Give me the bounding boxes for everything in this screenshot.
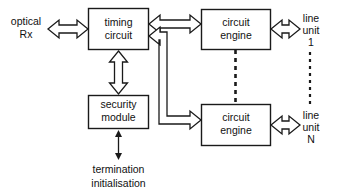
connector-optical-rx-to-timing-circuit	[48, 20, 88, 38]
block-timing-circuit-label-line1: timing	[104, 16, 132, 28]
block-circuit-engine-n-label-line1: circuit	[222, 111, 250, 123]
diagram-canvas: timing circuit security module circuit e…	[0, 0, 337, 194]
label-termination: termination	[93, 163, 145, 175]
label-line-unit-n-line1: line	[303, 109, 320, 121]
connector-security-module-arrowhead-up	[115, 130, 122, 137]
label-optical-rx-line1: optical	[11, 15, 41, 27]
connector-circuit-engine-n-to-line-unit-n	[271, 116, 300, 134]
connector-timing-circuit-to-security-module	[110, 51, 128, 94]
block-security-module-label-line2: module	[101, 111, 136, 123]
label-line-unit-1-line3: 1	[308, 36, 314, 48]
label-line-unit-1-line2: unit	[303, 24, 320, 36]
connector-termination-arrowhead-down	[115, 153, 122, 160]
connector-timing-circuit-to-circuit-engine-n-branch	[149, 27, 201, 129]
block-circuit-engine-1-label-line1: circuit	[222, 16, 250, 28]
label-line-unit-n-line3: N	[307, 133, 315, 145]
block-circuit-engine-1-label-line2: engine	[220, 29, 252, 41]
label-optical-rx-line2: Rx	[20, 28, 34, 40]
block-circuit-engine-n-label-line2: engine	[220, 124, 252, 136]
connector-circuit-engine-1-to-line-unit-1	[271, 20, 300, 38]
label-line-unit-n-line2: unit	[303, 121, 320, 133]
block-timing-circuit-label-line2: circuit	[105, 29, 133, 41]
block-diagram: timing circuit security module circuit e…	[0, 0, 337, 194]
label-initialisation: initialisation	[91, 177, 145, 189]
block-security-module-label-line1: security	[100, 98, 137, 110]
label-line-unit-1-line1: line	[303, 12, 320, 24]
